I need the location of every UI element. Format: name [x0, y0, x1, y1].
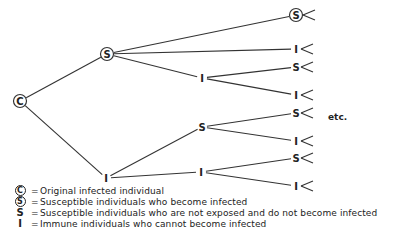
tree-edge	[114, 16, 289, 52]
tree-edge	[110, 129, 197, 175]
equals-sign: =	[31, 208, 39, 218]
svg-text:I: I	[294, 90, 298, 101]
node-c: C	[14, 95, 27, 108]
svg-text:S: S	[198, 122, 205, 133]
continuation-fork	[301, 108, 313, 113]
node-i1: I	[104, 173, 108, 184]
legend-label: Immune individuals who cannot become inf…	[40, 219, 266, 229]
circled-s-symbol: S	[12, 196, 28, 207]
continuation-fork	[301, 95, 313, 100]
equals-sign: =	[31, 219, 39, 229]
svg-text:S: S	[292, 62, 299, 73]
legend-label: Original infected individual	[40, 186, 164, 196]
legend-row-original-infected: C = Original infected individual	[12, 185, 377, 196]
svg-text:S: S	[292, 108, 299, 119]
node-i3e: I	[294, 136, 298, 147]
tree-edge	[207, 114, 291, 127]
etc-label: etc.	[328, 112, 347, 122]
tree-edge	[25, 106, 102, 175]
svg-text:I: I	[294, 136, 298, 147]
continuation-fork	[303, 10, 315, 15]
continuation-fork	[301, 67, 313, 72]
tree-edge	[206, 173, 291, 186]
node-s3d: S	[292, 108, 299, 119]
equals-sign: =	[31, 197, 39, 207]
tree-edge	[114, 56, 197, 77]
legend: C = Original infected individual S = Sus…	[12, 185, 377, 229]
i-symbol: I	[12, 218, 28, 229]
node-i3a: I	[294, 44, 298, 55]
s-symbol: S	[12, 207, 28, 218]
tree-edge	[114, 49, 291, 54]
continuation-fork	[303, 15, 315, 20]
node-s3f: S	[292, 153, 299, 164]
node-i2c: I	[199, 167, 203, 178]
continuation-fork	[301, 44, 313, 49]
legend-row-susceptible-not-exposed: S = Susceptible individuals who are not …	[12, 207, 377, 218]
legend-label: Susceptible individuals who become infec…	[40, 197, 247, 207]
tree-edge	[207, 79, 291, 94]
continuation-fork	[301, 62, 313, 67]
node-s2: S	[290, 9, 303, 22]
tree-edge	[207, 128, 291, 141]
svg-text:C: C	[16, 96, 23, 107]
node-i2a: I	[200, 73, 204, 84]
continuation-fork	[301, 141, 313, 146]
legend-label: Susceptible individuals who are not expo…	[40, 208, 377, 218]
equals-sign: =	[31, 186, 39, 196]
svg-text:S: S	[292, 10, 299, 21]
tree-edge	[207, 68, 291, 78]
svg-text:I: I	[294, 44, 298, 55]
tree-edge	[206, 159, 291, 172]
svg-text:S: S	[292, 153, 299, 164]
continuation-fork	[301, 113, 313, 118]
node-i3c: I	[294, 90, 298, 101]
svg-text:I: I	[104, 173, 108, 184]
tree-edge	[26, 57, 101, 97]
svg-text:S: S	[103, 49, 110, 60]
svg-text:I: I	[200, 73, 204, 84]
continuation-fork	[301, 136, 313, 141]
svg-text:I: I	[199, 167, 203, 178]
continuation-fork	[301, 158, 313, 163]
node-s3b: S	[292, 62, 299, 73]
tree-edge	[111, 172, 196, 177]
legend-row-immune: I = Immune individuals who cannot become…	[12, 218, 377, 229]
node-s2b: S	[198, 122, 205, 133]
continuation-fork	[301, 49, 313, 54]
continuation-fork	[301, 90, 313, 95]
circled-c-symbol: C	[12, 185, 28, 196]
node-s1: S	[101, 48, 114, 61]
continuation-fork	[301, 153, 313, 158]
legend-row-susceptible-infected: S = Susceptible individuals who become i…	[12, 196, 377, 207]
